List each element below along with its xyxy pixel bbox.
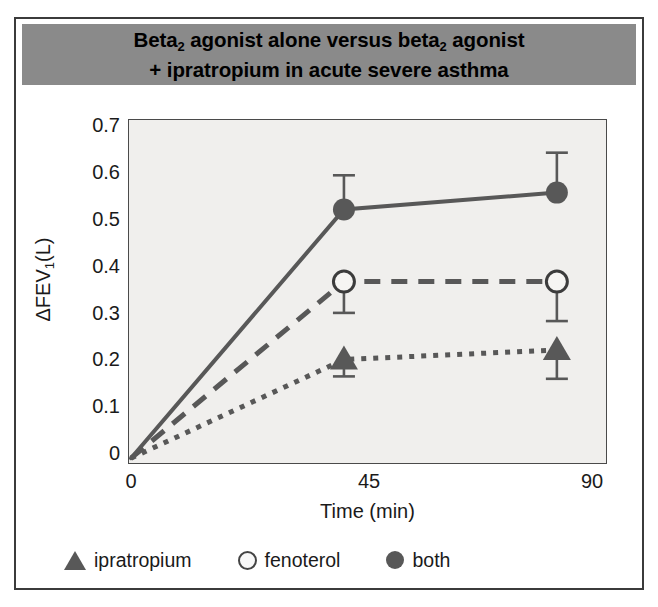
x-axis-label: Time (min) xyxy=(128,500,607,523)
legend-label-both: both xyxy=(412,549,450,572)
chart-title: Beta2 agonist alone versus beta2 agonist… xyxy=(134,26,525,83)
open-circle-icon xyxy=(238,551,257,570)
legend-label-ipratropium: ipratropium xyxy=(94,549,192,572)
y-axis-label: ΔFEV1(L) xyxy=(32,220,55,340)
y-tick-0.6: 0.6 xyxy=(60,161,120,184)
legend-item-fenoterol[interactable]: fenoterol xyxy=(238,549,341,572)
chart-title-line-2: + ipratropium in acute severe asthma xyxy=(149,58,508,81)
y-tick-0.1: 0.1 xyxy=(60,395,120,418)
x-tick-45: 45 xyxy=(334,470,404,493)
x-tick-0: 0 xyxy=(96,470,166,493)
legend-item-ipratropium[interactable]: ipratropium xyxy=(64,549,192,572)
chart-legend: ipratropium fenoterol both xyxy=(64,545,584,575)
filled-circle-icon xyxy=(386,551,404,569)
legend-item-both[interactable]: both xyxy=(386,549,450,572)
x-tick-90: 90 xyxy=(557,470,627,493)
chart-title-line-1: Beta2 agonist alone versus beta2 agonist xyxy=(134,28,525,51)
y-tick-0.5: 0.5 xyxy=(60,208,120,231)
y-tick-0.4: 0.4 xyxy=(60,255,120,278)
legend-label-fenoterol: fenoterol xyxy=(265,549,341,572)
y-tick-0: 0 xyxy=(60,442,120,465)
y-tick-0.2: 0.2 xyxy=(60,348,120,371)
plot-area xyxy=(128,119,607,464)
y-axis-ticks: 0.7 0.6 0.5 0.4 0.3 0.2 0.1 0 xyxy=(56,0,120,607)
y-tick-0.7: 0.7 xyxy=(60,114,120,137)
filled-triangle-icon xyxy=(64,551,86,570)
figure-container: Beta2 agonist alone versus beta2 agonist… xyxy=(0,0,658,607)
y-tick-0.3: 0.3 xyxy=(60,302,120,325)
